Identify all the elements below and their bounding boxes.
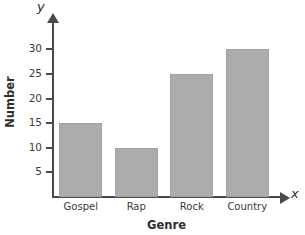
- y-axis-tick-label: 10: [20, 141, 42, 153]
- y-axis-tick-label: 25: [20, 67, 42, 79]
- x-axis-title: Genre: [52, 218, 281, 232]
- x-axis-label-rock: Rock: [164, 201, 220, 212]
- x-axis-arrow-icon: [280, 192, 290, 204]
- y-axis-title: Number: [3, 67, 17, 137]
- y-axis-tick: [46, 171, 53, 173]
- y-axis-tick: [46, 48, 53, 50]
- chart-title: Favorite Music Genre: [0, 0, 305, 4]
- y-axis-tick-label: 15: [20, 116, 42, 128]
- bar-gospel: [59, 123, 102, 197]
- y-axis-tick: [46, 122, 53, 124]
- y-axis-tick: [46, 147, 53, 149]
- y-axis-tick: [46, 98, 53, 100]
- bar-rock: [170, 74, 213, 197]
- x-axis-label-rap: Rap: [109, 201, 165, 212]
- x-axis-letter: x: [291, 186, 299, 201]
- bar-country: [226, 49, 269, 197]
- x-axis-label-country: Country: [220, 201, 276, 212]
- y-axis-tick-label: 30: [20, 42, 42, 54]
- y-axis-tick-label: 20: [20, 92, 42, 104]
- y-axis-tick: [46, 73, 53, 75]
- bar-chart: Favorite Music Genre y x 51015202530 Gos…: [0, 0, 305, 235]
- x-axis-label-gospel: Gospel: [53, 201, 109, 212]
- bar-rap: [115, 148, 158, 197]
- y-axis-arrow-icon: [47, 13, 59, 23]
- y-axis-letter: y: [37, 0, 45, 14]
- y-axis-tick-label: 5: [20, 165, 42, 177]
